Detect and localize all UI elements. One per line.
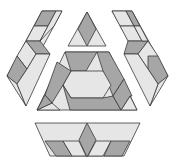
hexagon-tessellation-figure: Hexagonal tessellation pattern <box>0 0 174 163</box>
central-triangle <box>37 52 137 110</box>
pattern-canvas: Hexagonal tessellation pattern <box>0 0 174 163</box>
top-triangle <box>68 12 106 46</box>
bottom-trapezoid <box>35 123 140 157</box>
pattern-regions <box>7 11 168 157</box>
central-triangle-tile-light <box>63 71 111 98</box>
